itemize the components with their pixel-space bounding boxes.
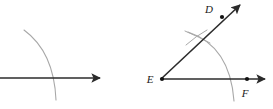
label-e: E [146,73,154,85]
ray-ed [161,5,240,79]
left-panel [0,30,100,100]
right-panel: E F D [146,3,265,101]
geometry-figure: E F D [0,0,273,109]
point-e [160,77,164,81]
point-f [245,77,249,81]
angle-construction-arc [188,32,234,101]
left-construction-arc [24,30,56,100]
geometry-canvas: E F D [0,0,273,109]
label-d: D [204,3,213,15]
point-d [220,15,224,19]
label-f: F [241,87,249,99]
